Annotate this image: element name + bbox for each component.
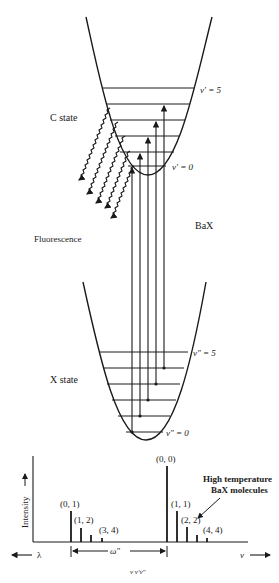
v-double-prime-0-label: v″ = 0 [166,428,189,438]
molecule-label: BaX [195,220,214,231]
svg-text:(0, 0): (0, 0) [156,454,176,464]
x-axis-label: ν v′v″ [130,568,146,576]
nu-arrow: ν [240,550,270,560]
svg-text:High temperature: High temperature [203,474,272,484]
svg-text:(4, 4): (4, 4) [203,525,223,535]
lambda-arrow: λ [12,550,42,560]
fluorescence-label: Fluorescence [34,234,81,244]
v-prime-0-label: v′ = 0 [172,162,194,172]
intensity-axis-label: Intensity [20,474,30,528]
svg-text:(3, 4): (3, 4) [99,525,119,535]
bax-fluorescence-diagram: C state v′ = 5 v′ = 0 Fluorescence BaX X… [0,0,279,583]
svg-text:ν: ν [240,550,244,560]
spectrum-peak-labels: (0, 1) (1, 2) (3, 4) (0, 0) (1, 1) (2, 2… [60,454,223,535]
svg-text:λ: λ [37,550,42,560]
omega-spacing-marker: ω″ [71,546,167,557]
v-prime-5-label: v′ = 5 [200,85,222,95]
fluorescence-arrows [79,108,134,218]
svg-text:BaX molecules: BaX molecules [211,485,268,495]
x-state-label: X state [50,374,79,385]
annotation: High temperature BaX molecules [198,474,272,518]
x-state-potential [83,282,206,440]
svg-text:Intensity: Intensity [20,496,30,528]
svg-text:(1, 1): (1, 1) [171,499,191,509]
svg-text:(1, 2): (1, 2) [74,515,94,525]
v-double-prime-5-label: v″ = 5 [193,348,216,358]
c-state-potential [86,17,212,175]
c-state-label: C state [50,112,78,123]
svg-text:(0, 1): (0, 1) [60,499,80,509]
svg-text:ω″: ω″ [110,546,120,556]
svg-text:(2, 2): (2, 2) [181,515,201,525]
